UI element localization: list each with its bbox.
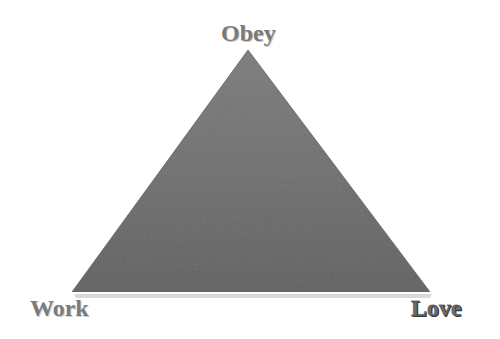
vertex-label-bottom-right: Love <box>411 296 462 320</box>
triangle-shadow <box>74 294 432 298</box>
triangle-diagram <box>0 0 500 339</box>
vertex-label-bottom-left: Work <box>30 296 89 320</box>
diagram-canvas: Obey Work Love <box>0 0 500 339</box>
triangle-shape <box>72 50 430 292</box>
vertex-label-top: Obey <box>221 21 276 45</box>
